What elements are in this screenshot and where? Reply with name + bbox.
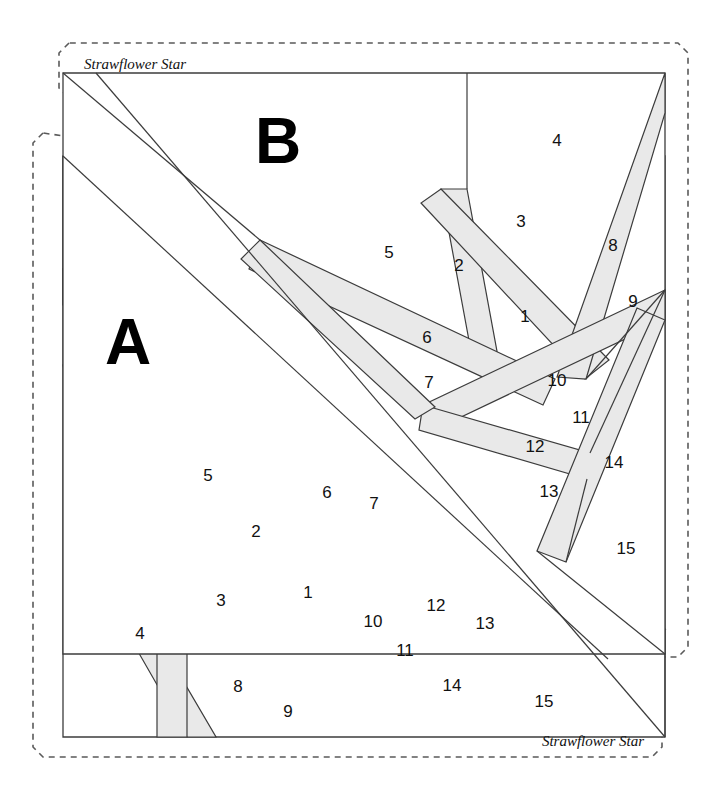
piece-label: 6	[322, 483, 331, 502]
piece-label: 2	[454, 256, 463, 275]
block-letter-b: B	[255, 105, 301, 177]
piece-label: 1	[303, 583, 312, 602]
piece-label: 5	[203, 466, 212, 485]
pattern-sheet: B A Strawflower Star Strawflower Star 1 …	[0, 0, 727, 800]
piece-label: 7	[424, 373, 433, 392]
piece-label: 10	[548, 371, 567, 390]
piece-label: 4	[135, 624, 144, 643]
piece-label: 13	[476, 614, 495, 633]
piece-label: 10	[364, 612, 383, 631]
piece-label: 4	[552, 131, 561, 150]
piece-label: 15	[617, 539, 636, 558]
piece-label: 11	[396, 641, 414, 660]
piece-label: 14	[443, 676, 462, 695]
piece-label: 12	[526, 437, 545, 456]
piece-label: 2	[251, 522, 260, 541]
piece-label: 12	[427, 596, 446, 615]
piece-label: 9	[283, 702, 292, 721]
paper-piecing-diagram: B A Strawflower Star Strawflower Star 1 …	[0, 0, 727, 800]
piece-label: 13	[540, 482, 559, 501]
pattern-name-bottom: Strawflower Star	[542, 733, 644, 749]
piece-label: 6	[422, 328, 431, 347]
piece-label: 7	[369, 494, 378, 513]
piece-label: 11	[572, 408, 590, 427]
piece-label: 8	[233, 677, 242, 696]
piece-label: 9	[628, 292, 637, 311]
piece-label: 3	[516, 212, 525, 231]
block-letter-a: A	[105, 306, 151, 378]
piece-label: 14	[605, 453, 624, 472]
block-b-group	[63, 73, 665, 654]
piece-label: 3	[216, 591, 225, 610]
pattern-name-top: Strawflower Star	[84, 56, 186, 72]
piece-label: 5	[384, 243, 393, 262]
piece-label: 1	[520, 307, 529, 326]
piece-label: 8	[608, 236, 617, 255]
piece-label: 15	[535, 692, 554, 711]
